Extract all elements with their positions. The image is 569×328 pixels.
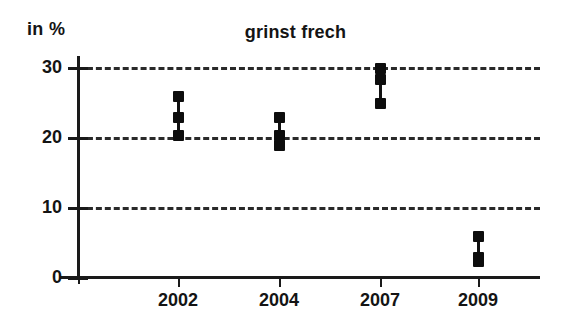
gridline-20 xyxy=(78,137,540,140)
y-tick-label-0: 0 xyxy=(18,267,62,288)
x-tick-label-2002: 2002 xyxy=(138,290,218,311)
gridline-10 xyxy=(78,207,540,210)
chart-container: in % grinst frech 0102030 20022004200720… xyxy=(0,0,569,328)
x-tick-mark-2007 xyxy=(380,277,382,287)
y-tick-label-10: 10 xyxy=(18,197,62,218)
data-marker-2009-max xyxy=(473,231,484,242)
x-tick-mark-2002 xyxy=(178,277,180,287)
data-marker-2004-max xyxy=(274,112,285,123)
gridline-30 xyxy=(78,67,540,70)
data-marker-2007-mid xyxy=(375,74,386,85)
data-marker-2002-mid xyxy=(173,112,184,123)
y-axis-line xyxy=(77,56,80,280)
x-tick-label-2007: 2007 xyxy=(340,290,420,311)
x-tick-mark-2004 xyxy=(279,277,281,287)
y-tick-mark-20 xyxy=(68,137,88,140)
x-tick-label-2009: 2009 xyxy=(438,290,518,311)
data-marker-2002-max xyxy=(173,91,184,102)
y-tick-mark-30 xyxy=(68,67,88,70)
data-marker-2009-min xyxy=(473,256,484,267)
x-axis-origin-tick xyxy=(78,270,80,284)
y-tick-mark-10 xyxy=(68,207,88,210)
plot-area: 0102030 2002200420072009 xyxy=(0,0,569,328)
data-marker-2004-min xyxy=(274,140,285,151)
data-marker-2007-min xyxy=(375,98,386,109)
data-marker-2002-min xyxy=(173,130,184,141)
data-marker-2004-mid xyxy=(274,130,285,141)
y-tick-label-20: 20 xyxy=(18,127,62,148)
y-tick-label-30: 30 xyxy=(18,57,62,78)
x-tick-mark-2009 xyxy=(478,277,480,287)
x-axis-line xyxy=(60,276,540,279)
data-marker-2007-max xyxy=(375,63,386,74)
x-tick-label-2004: 2004 xyxy=(239,290,319,311)
